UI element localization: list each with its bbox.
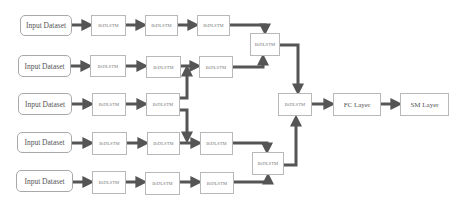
bidlstm-r1-c2: BiDLSTM [145,15,178,36]
bidlstm-merge-bottom: BiDLSTM [252,152,284,175]
fc-layer: FC Layer [333,93,381,116]
bidlstm-r1-c1: BiDLSTM [91,15,126,36]
bidlstm-r1-c3: BiDLSTM [197,15,230,36]
bidlstm-r4-c2: BiDLSTM [147,132,180,155]
bidlstm-r3-c2: BiDLSTM [146,93,180,116]
input-dataset-2: Input Dataset [18,55,71,77]
input-dataset-5: Input Dataset [16,170,73,192]
bidlstm-r5-c2: BiDLSTM [145,172,180,195]
bidlstm-r3-c1: BiDLSTM [92,93,126,116]
bidlstm-r4-c3: BiDLSTM [200,132,233,155]
bidlstm-merge-top: BiDLSTM [250,33,280,56]
sm-layer: SM Layer [400,93,449,116]
bidlstm-r2-c1: BiDLSTM [90,55,126,77]
bidlstm-architecture-diagram: Input Dataset BiDLSTM BiDLSTM BiDLSTM In… [0,0,466,207]
input-dataset-4: Input Dataset [17,132,72,153]
bidlstm-r2-c3: BiDLSTM [199,56,233,78]
bidlstm-merge-center: BiDLSTM [278,93,312,116]
bidlstm-r5-c1: BiDLSTM [92,171,126,194]
bidlstm-r4-c1: BiDLSTM [92,132,127,155]
bidlstm-r2-c2: BiDLSTM [146,56,181,78]
input-dataset-1: Input Dataset [20,15,72,36]
bidlstm-r5-c3: BiDLSTM [200,172,234,194]
input-dataset-3: Input Dataset [18,93,72,115]
